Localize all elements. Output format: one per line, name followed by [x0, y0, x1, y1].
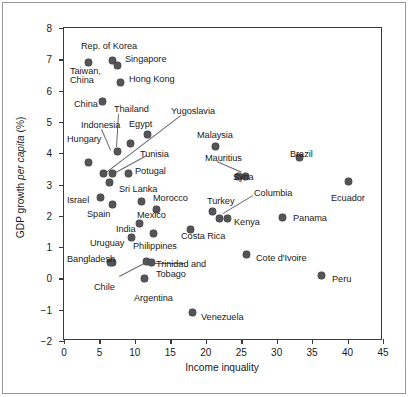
data-point — [85, 159, 92, 166]
data-point — [150, 230, 157, 237]
plot-area: −2−1012345678 051015202530354045 Rep. of… — [63, 27, 382, 340]
data-point — [109, 201, 116, 208]
point-label: Ecuador — [331, 193, 365, 203]
data-point — [97, 194, 104, 201]
x-tick-label: 35 — [307, 347, 318, 358]
point-label: Mauritius — [205, 153, 242, 163]
point-label: Bangladesh — [67, 254, 115, 264]
point-label: Yugoslavia — [171, 106, 215, 116]
y-tick-label: 0 — [46, 273, 52, 284]
data-point — [114, 62, 121, 69]
data-point — [189, 309, 196, 316]
leader-line — [101, 129, 111, 150]
data-point — [109, 170, 116, 177]
y-tick: 4 — [59, 153, 64, 154]
point-label: Potugal — [135, 166, 166, 176]
data-point — [144, 131, 151, 138]
y-tick-label: 5 — [46, 116, 52, 127]
x-tick-label: 20 — [200, 347, 211, 358]
point-label: Syria — [233, 172, 254, 182]
y-tick-label: −2 — [41, 336, 52, 347]
x-tick — [99, 339, 100, 344]
x-tick — [64, 339, 65, 344]
data-point — [99, 98, 106, 105]
x-tick — [241, 339, 242, 344]
data-point — [136, 220, 143, 227]
leader-line — [116, 114, 119, 147]
data-point — [141, 275, 148, 282]
point-label: Philippines — [133, 241, 177, 251]
point-label: Sri Lanka — [119, 184, 157, 194]
y-tick: 6 — [59, 91, 64, 92]
point-label: Argentina — [134, 293, 173, 303]
x-tick-label: 30 — [271, 347, 282, 358]
x-tick-label: 15 — [165, 347, 176, 358]
y-tick: 3 — [59, 185, 64, 186]
data-point — [243, 251, 250, 258]
y-tick: 7 — [59, 59, 64, 60]
x-tick — [312, 339, 313, 344]
x-tick-label: 10 — [129, 347, 140, 358]
x-tick — [135, 339, 136, 344]
x-tick-label: 45 — [377, 347, 388, 358]
point-label: Turkey — [207, 196, 234, 206]
point-label: Spain — [87, 209, 110, 219]
data-point — [106, 179, 113, 186]
y-tick: 5 — [59, 122, 64, 123]
point-label: Cote d'Ivoire — [256, 253, 307, 263]
data-point — [114, 148, 121, 155]
point-label: Morocco — [153, 193, 188, 203]
point-label: India — [116, 224, 136, 234]
x-tick-label: 5 — [97, 347, 103, 358]
point-label: Brazil — [290, 149, 313, 159]
point-label: Singapore — [125, 54, 166, 64]
x-tick — [170, 339, 171, 344]
data-point — [345, 178, 352, 185]
point-label: China — [70, 75, 94, 85]
data-point — [127, 140, 134, 147]
y-axis-label-prefix: GDP growth — [15, 180, 26, 238]
y-tick-label: 8 — [46, 23, 52, 34]
y-axis-label-suffix: (%) — [15, 117, 26, 136]
point-label: Thailand — [114, 104, 149, 114]
x-tick-label: 0 — [61, 347, 67, 358]
point-label: Chile — [94, 282, 115, 292]
point-label: Uruguay — [90, 238, 124, 248]
data-point — [85, 59, 92, 66]
y-tick: 2 — [59, 216, 64, 217]
data-point — [125, 170, 132, 177]
y-tick: 8 — [59, 28, 64, 29]
leader-line — [119, 263, 144, 277]
x-tick-label: 25 — [236, 347, 247, 358]
x-tick-label: 40 — [342, 347, 353, 358]
x-tick — [277, 339, 278, 344]
point-label: Peru — [332, 274, 351, 284]
y-tick: 0 — [59, 278, 64, 279]
y-tick: 1 — [59, 247, 64, 248]
x-tick — [383, 339, 384, 344]
y-tick-label: 4 — [46, 148, 52, 159]
point-label: Panama — [293, 213, 327, 223]
x-tick — [348, 339, 349, 344]
point-label: Egypt — [129, 119, 152, 129]
data-point — [138, 198, 145, 205]
point-label: Costa Rica — [181, 231, 225, 241]
point-label: Mexico — [137, 210, 166, 220]
data-point — [212, 143, 219, 150]
data-point — [279, 214, 286, 221]
point-label: Hungary — [67, 134, 101, 144]
scatter-chart-figure: GDP growth per capita (%) Income inquali… — [0, 0, 409, 397]
y-tick-label: −1 — [41, 304, 52, 315]
data-point — [148, 259, 155, 266]
point-label: Indonesia — [81, 120, 120, 130]
y-tick-label: 6 — [46, 85, 52, 96]
y-tick-label: 3 — [46, 179, 52, 190]
point-label: Israel — [67, 195, 89, 205]
data-point — [209, 208, 216, 215]
y-axis-label-italic: per capita — [15, 135, 26, 180]
data-point — [216, 215, 223, 222]
y-tick-label: 7 — [46, 54, 52, 65]
point-label: Kenya — [234, 217, 260, 227]
y-tick-label: 1 — [46, 242, 52, 253]
point-label: Venezuela — [201, 312, 243, 322]
